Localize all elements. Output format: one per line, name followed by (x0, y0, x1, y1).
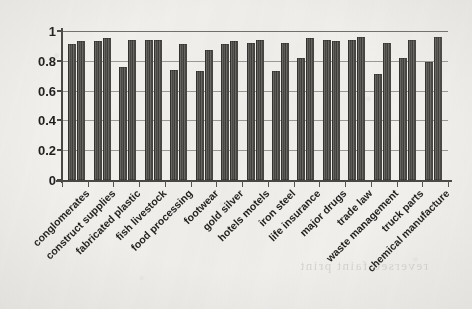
bars-layer (62, 31, 448, 180)
y-tick-mark-0.2 (57, 149, 62, 151)
bar-group (344, 31, 369, 180)
bar (119, 67, 127, 180)
bar-group (191, 31, 216, 180)
bar (230, 41, 238, 180)
bar (77, 41, 85, 180)
bar (399, 58, 407, 180)
bar (332, 41, 340, 180)
bar-group (140, 31, 165, 180)
bar (170, 70, 178, 180)
bar (247, 43, 255, 180)
bar (154, 40, 162, 180)
x-axis-line (56, 180, 452, 182)
y-tick-label-0.2: 0.2 (38, 144, 56, 157)
bar (408, 40, 416, 180)
y-tick-label-0.6: 0.6 (38, 84, 56, 97)
bar-group (370, 31, 395, 180)
y-axis-line (61, 28, 63, 183)
bar (281, 43, 289, 180)
bar (205, 50, 213, 180)
y-tick-label-0.4: 0.4 (38, 114, 56, 127)
bar-group (268, 31, 293, 180)
bar (306, 38, 314, 180)
x-axis-category-labels: conglomeratesconstruct suppliesfabricate… (0, 183, 472, 303)
bar-group (64, 31, 89, 180)
bar (94, 41, 102, 180)
bar-group (421, 31, 446, 180)
bar-group (242, 31, 267, 180)
bar (221, 44, 229, 180)
y-tick-label-1: 1 (49, 25, 56, 38)
bar (425, 62, 433, 180)
bar (196, 71, 204, 180)
bar (272, 71, 280, 180)
bar-group (217, 31, 242, 180)
y-tick-mark-0.4 (57, 119, 62, 121)
bar (145, 40, 153, 180)
bar (383, 43, 391, 180)
bar-chart: 00.20.40.60.81 conglomeratesconstruct su… (0, 0, 472, 309)
bar-group (166, 31, 191, 180)
y-tick-mark-0.8 (57, 60, 62, 62)
bar (434, 37, 442, 180)
y-tick-mark-1 (57, 30, 62, 32)
bar (357, 37, 365, 180)
bar-group (115, 31, 140, 180)
bar (297, 58, 305, 180)
bar-group (319, 31, 344, 180)
bar-group (293, 31, 318, 180)
bar-group (89, 31, 114, 180)
bar (256, 40, 264, 180)
bar (103, 38, 111, 180)
bar (323, 40, 331, 180)
bar-group (395, 31, 420, 180)
bar (68, 44, 76, 180)
y-tick-mark-0.6 (57, 90, 62, 92)
bar (374, 74, 382, 180)
bar (179, 44, 187, 180)
bar (348, 40, 356, 180)
y-tick-label-0.8: 0.8 (38, 54, 56, 67)
y-axis-tick-labels: 00.20.40.60.81 (18, 22, 56, 188)
plot-area (62, 31, 448, 180)
bar (128, 40, 136, 180)
